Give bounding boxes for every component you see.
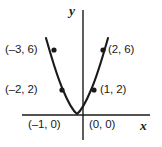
point-label-neg2-2: (–2, 2) bbox=[5, 84, 38, 96]
point-label-2-6: (2, 6) bbox=[108, 44, 134, 56]
point-marker-neg2-2 bbox=[59, 87, 64, 92]
point-label-neg3-6: (–3, 6) bbox=[5, 44, 38, 56]
point-label-1-2: (1, 2) bbox=[100, 84, 126, 96]
point-marker-2-6 bbox=[100, 47, 105, 52]
y-axis-label: y bbox=[69, 4, 75, 18]
point-marker-1-2 bbox=[91, 87, 96, 92]
x-axis-label: x bbox=[140, 119, 147, 133]
parabola-graph-figure: (–3, 6) (2, 6) (–2, 2) (1, 2) (–1, 0) (0… bbox=[0, 0, 162, 147]
plot-canvas bbox=[0, 0, 162, 147]
point-label-neg1-0: (–1, 0) bbox=[28, 119, 61, 131]
point-label-0-0: (0, 0) bbox=[89, 119, 115, 131]
point-marker-neg3-6 bbox=[51, 47, 56, 52]
